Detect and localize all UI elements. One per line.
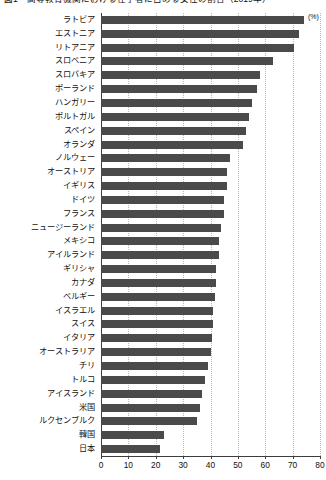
category-label: ドイツ: [71, 195, 95, 205]
category-label: アイルランド: [47, 250, 95, 260]
x-tick-mark: [265, 456, 266, 459]
category-label: ルクセンブルク: [39, 416, 95, 426]
bar: [101, 16, 304, 24]
category-label: メキシコ: [63, 236, 95, 246]
bar: [101, 224, 221, 232]
bar: [101, 334, 212, 342]
category-label: ギリシャ: [63, 264, 95, 274]
bar: [101, 141, 243, 149]
x-tick-label: 60: [261, 460, 270, 470]
category-label: 米国: [79, 403, 95, 413]
bars: [101, 13, 320, 456]
category-label: 日本: [79, 444, 95, 454]
x-tick-label: 50: [233, 460, 242, 470]
bar: [101, 113, 249, 121]
bar: [101, 445, 160, 453]
bar: [101, 376, 205, 384]
category-label: オーストリア: [47, 167, 95, 177]
x-tick-label: 20: [151, 460, 160, 470]
chart-title: 図1 高等教育機関における在学者に占める女性の割合（2019年）: [4, 0, 322, 5]
gridline: [320, 13, 321, 456]
x-tick-mark: [211, 456, 212, 459]
x-tick-label: 30: [178, 460, 187, 470]
category-label: 韓国: [79, 430, 95, 440]
x-tick-mark: [101, 456, 102, 459]
category-label: オランダ: [63, 140, 95, 150]
bar: [101, 127, 246, 135]
category-label: アイスランド: [47, 389, 95, 399]
bar: [101, 279, 216, 287]
bar: [101, 417, 197, 425]
x-tick-mark: [320, 456, 321, 459]
value-axis-ticks: 01020304050607080: [0, 456, 326, 480]
category-label: エストニア: [55, 29, 95, 39]
category-label: カナダ: [71, 278, 95, 288]
category-label: スロベニア: [55, 56, 95, 66]
bar: [101, 362, 208, 370]
x-tick-label: 40: [206, 460, 215, 470]
bar: [101, 320, 213, 328]
x-tick-label: 10: [124, 460, 133, 470]
bar: [101, 57, 273, 65]
x-tick-label: 70: [288, 460, 297, 470]
x-tick-label: 80: [315, 460, 324, 470]
category-label: ハンガリー: [55, 98, 95, 108]
bar: [101, 348, 211, 356]
bar: [101, 30, 299, 38]
bar: [101, 293, 215, 301]
category-label: ノルウェー: [55, 153, 95, 163]
x-tick-mark: [156, 456, 157, 459]
category-label: フランス: [63, 209, 95, 219]
bar: [101, 265, 216, 273]
bar: [101, 99, 252, 107]
category-label: ニュージーランド: [31, 223, 95, 233]
x-tick-mark: [293, 456, 294, 459]
bar-chart: 図1 高等教育機関における在学者に占める女性の割合（2019年） ラトビアエスト…: [0, 0, 326, 480]
bar: [101, 251, 219, 259]
category-label: チリ: [79, 361, 95, 371]
x-axis-unit-label: (%): [308, 13, 319, 21]
category-label: スイス: [71, 319, 95, 329]
bar: [101, 210, 224, 218]
x-tick-mark: [183, 456, 184, 459]
category-label: オーストラリア: [39, 347, 95, 357]
category-label: トルコ: [71, 375, 95, 385]
category-label: イギリス: [63, 181, 95, 191]
bar: [101, 390, 202, 398]
x-tick-mark: [128, 456, 129, 459]
category-label: スペイン: [64, 126, 95, 136]
bar: [101, 71, 260, 79]
category-label: ポーランド: [55, 84, 95, 94]
bar: [101, 237, 219, 245]
bar: [101, 404, 200, 412]
bar: [101, 44, 294, 52]
bar: [101, 85, 257, 93]
category-axis-labels: ラトビアエストニアリトアニアスロベニアスロバキアポーランドハンガリーポルトガルス…: [0, 13, 98, 456]
bar: [101, 196, 224, 204]
category-label: リトアニア: [55, 43, 95, 53]
bar: [101, 307, 213, 315]
category-label: ラトビア: [63, 15, 95, 25]
category-label: ポルトガル: [55, 112, 95, 122]
bar: [101, 168, 227, 176]
bar: [101, 182, 227, 190]
x-tick-mark: [238, 456, 239, 459]
x-tick-label: 0: [99, 460, 104, 470]
category-label: イタリア: [63, 333, 95, 343]
category-label: イスラエル: [55, 306, 95, 316]
category-label: ベルギー: [63, 292, 95, 302]
bar: [101, 154, 230, 162]
plot-area: [101, 13, 320, 456]
category-label: スロバキア: [55, 70, 95, 80]
bar: [101, 431, 164, 439]
